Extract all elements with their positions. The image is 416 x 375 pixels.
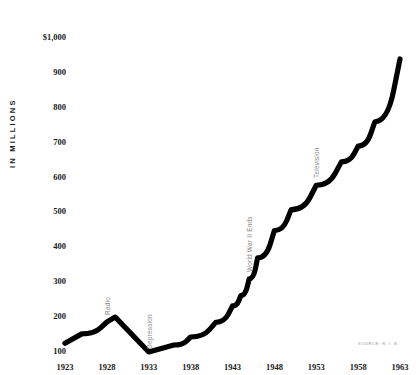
annotation-world-war-ii-ends: World War II Ends xyxy=(246,216,253,272)
source-note: SOURCE: R. I. B. xyxy=(358,341,399,346)
annotation-television: Television xyxy=(313,147,320,178)
data-series-line xyxy=(65,59,400,352)
plot-area xyxy=(0,0,416,375)
annotation-depression: Depression xyxy=(146,314,153,349)
annotation-radio: Radio xyxy=(104,297,111,315)
chart-container: IN MILLIONS 100200300400500600700800900$… xyxy=(0,0,416,375)
